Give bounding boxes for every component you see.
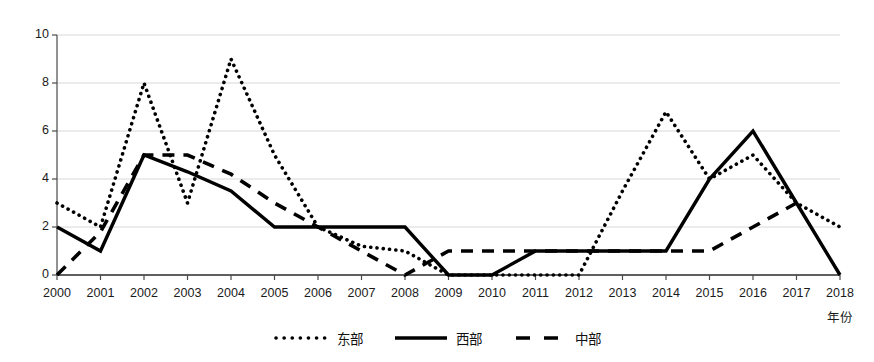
y-tick-label: 2 bbox=[17, 219, 49, 233]
legend-item-东部[interactable]: 东部 bbox=[274, 328, 363, 348]
x-axis-title: 年份 bbox=[814, 307, 866, 326]
y-tick-label: 6 bbox=[17, 123, 49, 137]
y-tick-label: 0 bbox=[17, 267, 49, 281]
y-tick-label: 4 bbox=[17, 171, 49, 185]
chart-legend: 东部西部中部 bbox=[0, 328, 874, 348]
legend-label: 西部 bbox=[456, 328, 482, 348]
data-series-layer bbox=[57, 59, 840, 275]
legend-label: 东部 bbox=[337, 328, 363, 348]
gridlines bbox=[57, 35, 840, 227]
legend-swatch-dashed bbox=[512, 331, 568, 345]
legend-swatch-dotted bbox=[274, 331, 330, 345]
chart-plot-area bbox=[0, 0, 874, 362]
y-tick-label: 8 bbox=[17, 75, 49, 89]
legend-label: 中部 bbox=[575, 328, 601, 348]
y-tick-label: 10 bbox=[17, 27, 49, 41]
series-line-1 bbox=[57, 131, 840, 275]
axis-lines bbox=[57, 35, 840, 275]
series-line-2 bbox=[57, 155, 797, 275]
legend-item-中部[interactable]: 中部 bbox=[512, 328, 601, 348]
line-chart: 0246810 20002001200220032004200520062007… bbox=[0, 0, 874, 362]
legend-swatch-solid bbox=[393, 331, 449, 345]
x-tick-label: 2018 bbox=[814, 286, 866, 300]
legend-item-西部[interactable]: 西部 bbox=[393, 328, 482, 348]
